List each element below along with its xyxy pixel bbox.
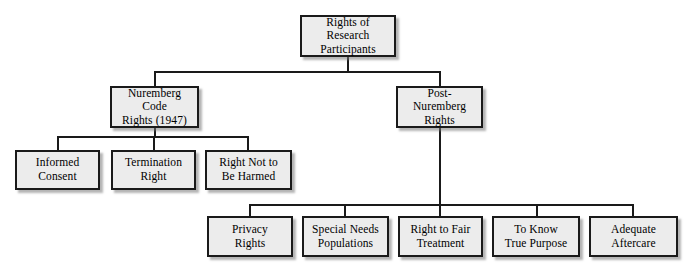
connector-root-stem [347, 57, 349, 72]
connector-root-bus [154, 71, 441, 73]
node-label: Nuremberg Code Rights (1947) [115, 87, 194, 128]
connector-post-nuremberg-stem [439, 128, 441, 205]
hierarchy-chart: Rights of Research Participants Nurember… [0, 0, 687, 277]
connector-to-informed-consent [57, 136, 59, 151]
node-adequate-aftercare[interactable]: Adequate Aftercare [589, 216, 678, 257]
node-post-nuremberg-rights[interactable]: Post-Nuremberg Rights [396, 86, 483, 128]
node-label: Privacy Rights [232, 223, 268, 250]
node-privacy-rights[interactable]: Privacy Rights [207, 216, 293, 257]
node-termination-right[interactable]: Termination Right [111, 150, 196, 190]
node-to-know-true-purpose[interactable]: To Know True Purpose [492, 216, 580, 257]
node-right-not-to-be-harmed[interactable]: Right Not to Be Harmed [205, 150, 292, 190]
node-label: To Know True Purpose [505, 223, 567, 250]
node-label: Post-Nuremberg Rights [401, 87, 478, 128]
node-label: Right Not to Be Harmed [219, 156, 278, 183]
connector-post-nuremberg-bus [249, 204, 633, 206]
connector-to-termination-right [153, 136, 155, 151]
node-label: Rights of Research Participants [305, 16, 391, 57]
node-rights-of-research-participants[interactable]: Rights of Research Participants [300, 15, 396, 57]
connector-to-post-nuremberg [439, 71, 441, 87]
node-label: Adequate Aftercare [611, 223, 656, 250]
node-right-to-fair-treatment[interactable]: Right to Fair Treatment [398, 216, 483, 257]
node-label: Special Needs Populations [312, 223, 379, 250]
connector-to-right-not-to-be-harmed [247, 136, 249, 151]
node-informed-consent[interactable]: Informed Consent [15, 150, 100, 190]
node-label: Right to Fair Treatment [410, 223, 470, 250]
connector-to-nuremberg-code [154, 71, 156, 87]
node-nuremberg-code-rights[interactable]: Nuremberg Code Rights (1947) [110, 86, 199, 128]
node-label: Termination Right [125, 156, 182, 183]
node-special-needs-populations[interactable]: Special Needs Populations [302, 216, 389, 257]
node-label: Informed Consent [36, 156, 80, 183]
